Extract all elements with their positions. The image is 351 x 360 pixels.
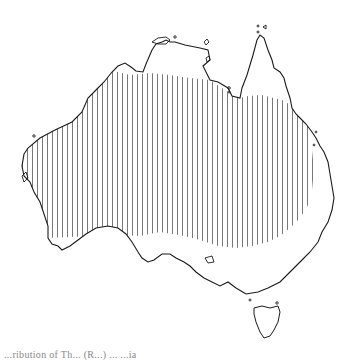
distribution-hatch [0, 60, 314, 248]
figure-caption: ...ribution of Th... (R...) ... ...ia [4, 349, 137, 360]
tasmania-outline [254, 306, 280, 338]
